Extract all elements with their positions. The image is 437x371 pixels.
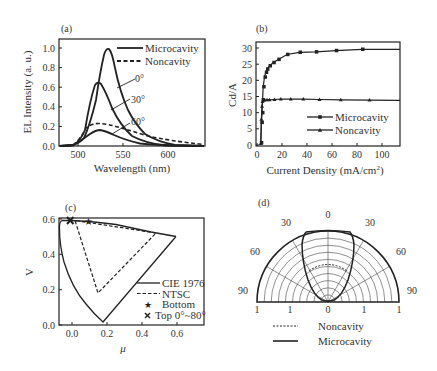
b-ytick: 5 [247, 123, 252, 134]
b-legend: Microcavity Noncavity [307, 111, 389, 136]
d-angle-label: 90 [238, 285, 248, 296]
a-xtick: 550 [116, 149, 131, 160]
b-xlabel: Current Density (mA/cm2) [266, 164, 383, 177]
d-angle-label: 30 [365, 217, 375, 228]
b-xtick: 20 [277, 149, 287, 160]
c-cie1976-locus [59, 221, 176, 323]
b-xtick: 100 [375, 149, 390, 160]
b-ylabel: Cd/A [226, 83, 238, 107]
a-annotation-0deg: 0° [135, 73, 144, 84]
b-ytick: 30 [242, 43, 252, 54]
d-legend-microcavity: Microcavity [318, 335, 372, 347]
a-curve-microcavity-30 [60, 83, 204, 146]
b-ytick: 25 [242, 59, 252, 70]
a-legend-noncavity: Noncavity [145, 55, 191, 67]
panel-b-label: (b) [256, 23, 268, 35]
d-angle-label: 60 [396, 246, 406, 257]
b-legend-microcavity: Microcavity [335, 111, 389, 123]
c-ytick: 0.2 [43, 284, 56, 295]
d-radial-label: 1 [288, 304, 293, 315]
a-legend: Microcavity Noncavity [117, 42, 199, 67]
a-xtick: 600 [161, 149, 176, 160]
panel-c: (c) 0.0 0.2 0.4 0.6 0.0 0.2 0.4 0.6 μ V … [23, 202, 206, 354]
panel-d-label: (d) [258, 197, 270, 209]
a-ylabel: EL Intensity (a. u.) [21, 50, 34, 133]
d-angle-label: 60 [250, 246, 260, 257]
b-legend-noncavity: Noncavity [335, 124, 381, 136]
a-xlabel: Wavelength (nm) [94, 162, 171, 175]
c-xtick: 0.0 [66, 328, 79, 339]
c-ytick: 0.4 [43, 249, 56, 260]
panel-a: (a) 0.0 0.2 0.4 0.6 0.8 1.0 500 550 600 … [21, 23, 205, 175]
b-xtick: 40 [302, 149, 312, 160]
c-xtick: 0.6 [171, 328, 184, 339]
a-ytick: 1.0 [43, 43, 56, 54]
c-ylabel: V [23, 268, 35, 276]
a-annotation-30deg: 30° [131, 94, 145, 105]
d-angle-label: 30 [281, 217, 291, 228]
panel-c-label: (c) [65, 202, 76, 214]
d-angle-label: 90 [407, 285, 417, 296]
figure: (a) 0.0 0.2 0.4 0.6 0.8 1.0 500 550 600 … [0, 0, 437, 371]
b-ytick: 0 [247, 140, 252, 151]
d-radial-label: 1 [362, 304, 367, 315]
a-ytick: 0.4 [43, 101, 56, 112]
d-legend: Noncavity Microcavity [273, 320, 372, 347]
a-annotation-60deg: 60° [131, 116, 145, 127]
c-ytick: 0.6 [43, 214, 56, 225]
d-radial-label: 0 [326, 304, 331, 315]
a-ytick: 0.2 [43, 121, 56, 132]
d-radial-label: 1 [397, 304, 402, 315]
c-legend: CIE 1976 NTSC ★ Bottom Top 0°~80° [137, 277, 206, 321]
c-legend-top: Top 0°~80° [155, 309, 206, 321]
b-ytick: 20 [242, 75, 252, 86]
b-ytick: 10 [242, 107, 252, 118]
b-xtick: 80 [352, 149, 362, 160]
b-ytick: 15 [242, 91, 252, 102]
c-ntsc-triangle [75, 221, 156, 294]
panel-a-label: (a) [61, 23, 72, 35]
c-xlabel: μ [119, 342, 126, 354]
b-xtick: 0 [255, 149, 260, 160]
d-radial-label: 1 [255, 304, 260, 315]
a-legend-microcavity: Microcavity [145, 42, 199, 54]
d-angle-label: 0 [326, 209, 331, 220]
d-legend-noncavity: Noncavity [318, 320, 364, 332]
c-legend-star-icon: ★ [144, 300, 152, 310]
a-xtick: 500 [71, 149, 86, 160]
a-ytick: 0.0 [43, 141, 56, 152]
a-ytick: 0.8 [43, 62, 56, 73]
c-ytick: 0.0 [43, 320, 56, 331]
b-xtick: 60 [327, 149, 337, 160]
c-xtick: 0.4 [136, 328, 149, 339]
a-ytick: 0.6 [43, 82, 56, 93]
panel-d: (d) 0 30 30 60 60 [238, 197, 417, 347]
c-marker-bottom-star: ★ [84, 216, 93, 227]
c-xtick: 0.2 [101, 328, 114, 339]
panel-b: (b) 0 5 10 15 20 25 30 0 20 40 60 80 100 [226, 23, 400, 177]
d-polar-grid [264, 231, 392, 302]
